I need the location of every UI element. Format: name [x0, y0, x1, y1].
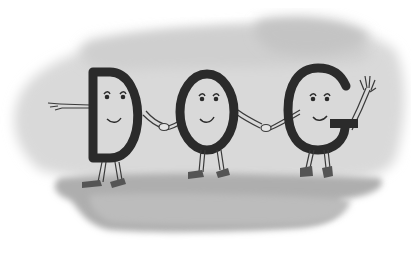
dog-letters-illustration: [0, 0, 411, 259]
